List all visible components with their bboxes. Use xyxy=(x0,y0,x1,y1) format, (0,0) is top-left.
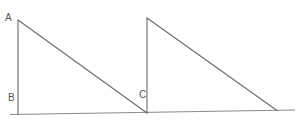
label-a: A xyxy=(5,12,12,23)
hypotenuse-second xyxy=(147,18,277,111)
hypotenuse-ac xyxy=(18,20,147,113)
triangle-cde xyxy=(147,18,277,113)
label-c: C xyxy=(139,89,146,100)
label-b: B xyxy=(8,92,15,103)
baseline xyxy=(10,110,295,115)
triangle-abc xyxy=(18,20,147,115)
geometry-diagram: A B C xyxy=(0,0,297,127)
